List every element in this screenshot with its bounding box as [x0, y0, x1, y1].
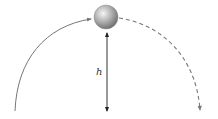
- rising-trajectory: [15, 19, 91, 111]
- ball: [94, 5, 118, 29]
- projectile-diagram: h: [0, 0, 218, 119]
- height-label: h: [96, 66, 102, 77]
- falling-trajectory: [119, 18, 200, 110]
